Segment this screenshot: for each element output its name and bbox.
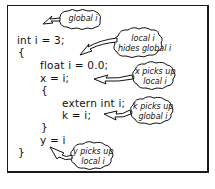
- callout-y-picks-up: y picks up local i: [73, 147, 113, 166]
- callout-line: x picks up: [135, 67, 175, 77]
- callout-line: local i: [135, 77, 175, 87]
- arrow-x-picks-up: [94, 75, 133, 84]
- callout-line: local i: [73, 157, 113, 167]
- arrow-global-i: [43, 16, 60, 24]
- callout-x-picks-up: x picks up local i: [135, 67, 175, 86]
- callout-line: global i: [133, 112, 173, 122]
- callout-k-picks-up: k picks up global i: [133, 102, 173, 121]
- callout-local-i-hides: local i hides global i: [118, 34, 168, 53]
- arrow-k-picks-up: [104, 110, 131, 120]
- callout-line: k picks up: [133, 102, 173, 112]
- arrow-local-i-hides: [80, 38, 117, 55]
- callout-line: local i: [118, 34, 168, 44]
- arrow-y-picks-up: [50, 147, 72, 160]
- callout-line: hides global i: [118, 44, 168, 54]
- callout-line: global i: [64, 14, 102, 24]
- callout-global-i: global i: [64, 14, 102, 24]
- callout-line: y picks up: [73, 147, 113, 157]
